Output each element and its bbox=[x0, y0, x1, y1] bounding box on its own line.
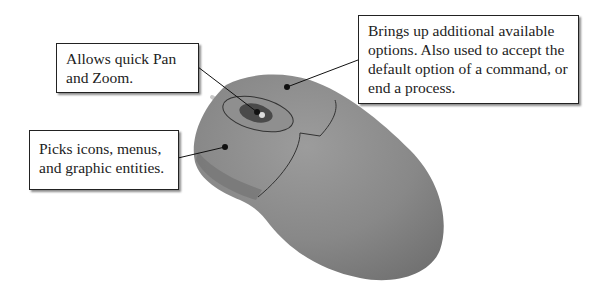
callout-text: Allows quick Pan bbox=[66, 49, 189, 68]
callout-text: Brings up additional available bbox=[368, 21, 569, 40]
callout-text: Picks icons, menus, bbox=[39, 139, 169, 158]
callout-right-button: Brings up additional available options. … bbox=[358, 15, 579, 104]
callout-text: options. Also used to accept the bbox=[368, 40, 569, 59]
callout-left-button: Picks icons, menus, and graphic entities… bbox=[29, 130, 179, 190]
leader-line-right bbox=[287, 60, 358, 87]
callout-pan-zoom: Allows quick Pan and Zoom. bbox=[56, 43, 199, 93]
callout-text: end a process. bbox=[368, 78, 569, 97]
leader-dot-right bbox=[284, 84, 290, 90]
leader-dot-left bbox=[222, 144, 228, 150]
leader-dot-wheel bbox=[254, 109, 260, 115]
callout-text: default option of a command, or bbox=[368, 59, 569, 78]
callout-text: and Zoom. bbox=[66, 68, 189, 87]
callout-text: and graphic entities. bbox=[39, 158, 169, 177]
